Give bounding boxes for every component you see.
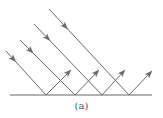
reflected-ray [46,71,70,95]
incident-arrow-icon [6,51,15,61]
incident-arrow-icon [34,24,49,40]
figure-caption: (a) [0,100,163,111]
reflected-ray [129,72,151,95]
incident-arrow-icon [49,9,67,28]
reflected-ray [75,71,98,95]
rays-group [6,9,151,95]
reflected-ray [102,71,124,95]
incident-arrow-icon [20,40,32,52]
